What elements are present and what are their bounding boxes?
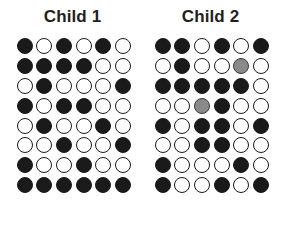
dot-cell [113, 155, 133, 175]
dot-cell [93, 76, 113, 96]
dot-filled [36, 177, 52, 193]
dot-cell [231, 175, 251, 195]
dot-open [174, 157, 190, 173]
dot-cell [113, 135, 133, 155]
dot-open [253, 58, 269, 74]
dot-cell [192, 56, 212, 76]
dot-cell [192, 175, 212, 195]
dot-open [17, 137, 33, 153]
dot-open [233, 118, 249, 134]
dot-open [174, 177, 190, 193]
dot-cell [212, 116, 232, 136]
dot-cell [54, 175, 74, 195]
dot-open [155, 58, 171, 74]
dot-cell [153, 36, 173, 56]
dot-cell [212, 56, 232, 76]
dot-open [76, 78, 92, 94]
dot-cell [54, 76, 74, 96]
dot-filled [36, 118, 52, 134]
dot-filled [174, 38, 190, 54]
dot-open [76, 38, 92, 54]
dot-filled [36, 58, 52, 74]
dot-cell [192, 135, 212, 155]
dot-cell [192, 36, 212, 56]
dot-filled [174, 78, 190, 94]
dot-cell [113, 96, 133, 116]
dot-filled [76, 98, 92, 114]
dot-cell [251, 116, 271, 136]
dot-open [233, 137, 249, 153]
dot-cell [74, 175, 94, 195]
dot-cell [74, 56, 94, 76]
dot-filled [155, 78, 171, 94]
dot-cell [113, 116, 133, 136]
dot-open [36, 98, 52, 114]
dot-cell [15, 175, 35, 195]
dot-open [95, 98, 111, 114]
dot-cell [35, 116, 55, 136]
dot-open [155, 137, 171, 153]
dot-open [174, 137, 190, 153]
dot-cell [212, 76, 232, 96]
dot-filled [17, 98, 33, 114]
dot-cell [54, 135, 74, 155]
dot-cell [113, 36, 133, 56]
dot-open [95, 78, 111, 94]
dot-filled [115, 137, 131, 153]
dot-cell [113, 56, 133, 76]
dot-cell [153, 135, 173, 155]
dot-cell [192, 155, 212, 175]
dot-cell [231, 36, 251, 56]
dot-cell [173, 175, 193, 195]
dot-cell [153, 76, 173, 96]
dot-open [115, 38, 131, 54]
dot-open [115, 157, 131, 173]
dot-cell [93, 36, 113, 56]
dot-filled [95, 177, 111, 193]
dot-cell [153, 56, 173, 76]
dot-open [233, 177, 249, 193]
dot-filled [56, 177, 72, 193]
dot-open [155, 98, 171, 114]
dot-cell [251, 56, 271, 76]
dot-cell [15, 36, 35, 56]
dot-open [233, 38, 249, 54]
dot-filled [155, 157, 171, 173]
dot-cell [35, 56, 55, 76]
dot-cell [54, 116, 74, 136]
dot-cell [212, 175, 232, 195]
dot-open [95, 137, 111, 153]
dot-open [194, 177, 210, 193]
dot-cell [212, 36, 232, 56]
dot-cell [93, 155, 113, 175]
dot-open [115, 118, 131, 134]
dot-filled [95, 118, 111, 134]
dot-cell [231, 56, 251, 76]
dot-cell [93, 135, 113, 155]
dot-filled [17, 38, 33, 54]
dot-cell [212, 155, 232, 175]
panel-title-child-1: Child 1 [13, 7, 132, 27]
dot-filled [155, 177, 171, 193]
dot-filled [214, 137, 230, 153]
dot-cell [93, 116, 113, 136]
dot-filled [56, 137, 72, 153]
dot-cell [173, 36, 193, 56]
dot-open [174, 118, 190, 134]
dot-cell [15, 56, 35, 76]
dot-open [253, 137, 269, 153]
panel-child-2: Child 2 [151, 0, 272, 225]
dot-cell [74, 96, 94, 116]
dot-cell [93, 56, 113, 76]
dot-filled [95, 38, 111, 54]
dot-cell [231, 135, 251, 155]
dot-cell [251, 36, 271, 56]
dot-cell [153, 175, 173, 195]
dot-filled [194, 137, 210, 153]
dot-cell [192, 76, 212, 96]
dot-filled [214, 98, 230, 114]
dot-open [95, 157, 111, 173]
dot-filled [214, 38, 230, 54]
dot-cell [173, 155, 193, 175]
dot-cell [74, 155, 94, 175]
